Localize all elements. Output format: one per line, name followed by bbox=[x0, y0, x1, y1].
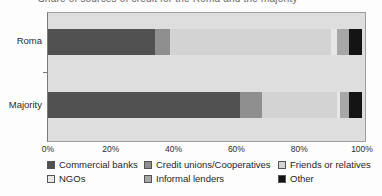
bar-segment bbox=[155, 29, 171, 55]
bar-segment bbox=[340, 92, 349, 118]
stacked-bar bbox=[48, 29, 362, 55]
bar-segment bbox=[240, 92, 262, 118]
bar-segment bbox=[349, 92, 362, 118]
x-tick-label: 60% bbox=[228, 144, 245, 154]
legend-label: Other bbox=[290, 173, 314, 184]
bar-segment bbox=[337, 29, 350, 55]
x-tick-label: 20% bbox=[102, 144, 119, 154]
legend-label: Friends or relatives bbox=[290, 159, 371, 170]
legend-item: NGOs bbox=[47, 173, 85, 184]
category-label-roma: Roma bbox=[0, 35, 42, 46]
plot-area bbox=[47, 12, 366, 142]
bar-segment bbox=[48, 92, 240, 118]
legend-swatch-informal-lenders bbox=[144, 175, 152, 183]
legend-swatch-friends-or-relatives bbox=[278, 161, 286, 169]
legend-swatch-other bbox=[278, 175, 286, 183]
legend-item: Commercial banks bbox=[47, 159, 138, 170]
legend-item: Friends or relatives bbox=[278, 159, 371, 170]
x-tick-label: 80% bbox=[291, 144, 308, 154]
chart-title: Share of sources of credit for the Roma … bbox=[38, 0, 298, 4]
legend-label: NGOs bbox=[59, 173, 85, 184]
bar-segment bbox=[262, 92, 337, 118]
x-tick-label: 40% bbox=[165, 144, 182, 154]
chart-figure: Share of sources of credit for the Roma … bbox=[0, 0, 382, 196]
category-label-majority: Majority bbox=[0, 99, 42, 110]
x-axis: 0% 20% 40% 60% 80% 100% bbox=[48, 144, 362, 156]
bar-segment bbox=[349, 29, 362, 55]
bar-segment bbox=[48, 29, 155, 55]
legend-label: Credit unions/Cooperatives bbox=[156, 159, 271, 170]
bar-segment bbox=[170, 29, 330, 55]
legend-swatch-credit-unions bbox=[144, 161, 152, 169]
legend-label: Commercial banks bbox=[59, 159, 138, 170]
legend-swatch-commercial-banks bbox=[47, 161, 55, 169]
x-tick-label: 0% bbox=[42, 144, 54, 154]
stacked-bar bbox=[48, 92, 362, 118]
x-tick-label: 100% bbox=[351, 144, 373, 154]
legend-swatch-ngos bbox=[47, 175, 55, 183]
legend-item: Other bbox=[278, 173, 314, 184]
y-axis-tick bbox=[43, 72, 47, 73]
legend-item: Informal lenders bbox=[144, 173, 224, 184]
legend-label: Informal lenders bbox=[156, 173, 224, 184]
legend-item: Credit unions/Cooperatives bbox=[144, 159, 271, 170]
